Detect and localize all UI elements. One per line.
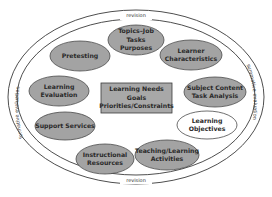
node-evaluation: Learning Evaluation <box>29 76 89 106</box>
node-learner: Learner Characteristics <box>160 40 222 70</box>
node-teaching: Teaching/Learning Activities <box>135 140 199 170</box>
left-ring-label: formative evaluation <box>13 86 24 140</box>
node-resources: Instructional Resources <box>76 144 134 174</box>
node-objectives: Learning Objectives <box>177 111 237 139</box>
bottom-ring-label: revision <box>121 177 151 183</box>
center-text: Learning Needs Goals Priorities/Constrai… <box>101 83 172 113</box>
node-support: Support Services <box>35 112 95 140</box>
right-ring-label: summative evaluation <box>246 63 259 120</box>
top-ring-label: revision <box>121 12 151 18</box>
node-subject: Subject Content Task Analysis <box>184 77 246 107</box>
node-pretesting: Pretesting <box>50 41 110 71</box>
instructional-design-diagram: formative evaluation summative evaluatio… <box>0 0 272 197</box>
node-topics: Topics–Job Tasks Purposes <box>108 25 164 55</box>
